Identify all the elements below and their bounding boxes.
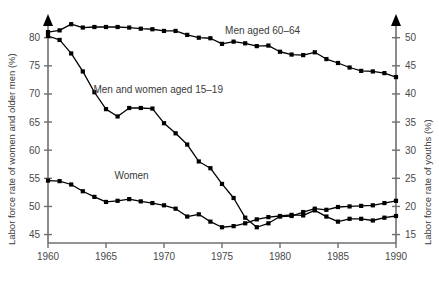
- data-point-marker: [301, 53, 305, 57]
- data-point-marker: [255, 44, 259, 48]
- right-tick-label: 25: [405, 173, 417, 184]
- data-point-marker: [232, 196, 236, 200]
- series-0: [46, 22, 398, 79]
- left-axis-arrow-icon: [43, 14, 53, 26]
- data-point-marker: [69, 182, 73, 186]
- data-point-marker: [208, 36, 212, 40]
- right-axis-arrow-icon: [391, 14, 401, 26]
- data-point-marker: [394, 75, 398, 79]
- data-point-marker: [81, 25, 85, 29]
- data-point-marker: [81, 189, 85, 193]
- data-point-marker: [394, 214, 398, 218]
- right-tick-label: 30: [405, 145, 417, 156]
- data-point-marker: [255, 225, 259, 229]
- data-point-marker: [382, 201, 386, 205]
- x-tick-label: 1990: [385, 251, 408, 262]
- data-point-marker: [127, 106, 131, 110]
- data-point-marker: [371, 69, 375, 73]
- right-axis-title: Labor force rate of youths (%): [422, 119, 433, 245]
- series-line-2: [48, 181, 396, 228]
- data-point-marker: [46, 178, 50, 182]
- data-point-marker: [266, 215, 270, 219]
- series-2: [46, 178, 398, 229]
- data-point-marker: [359, 204, 363, 208]
- left-tick-label: 70: [29, 88, 41, 99]
- data-point-marker: [278, 50, 282, 54]
- data-point-marker: [348, 65, 352, 69]
- series-label-0: Men aged 60–64: [225, 25, 301, 36]
- data-point-marker: [185, 214, 189, 218]
- right-axis: 1520253035404550: [391, 14, 417, 243]
- data-point-marker: [150, 106, 154, 110]
- chart-container: 4550556065707580 1520253035404550 196019…: [0, 0, 439, 285]
- data-series-group: [46, 22, 398, 229]
- x-tick-label: 1960: [37, 251, 60, 262]
- data-point-marker: [150, 27, 154, 31]
- data-point-marker: [197, 159, 201, 163]
- data-point-marker: [127, 197, 131, 201]
- data-point-marker: [185, 142, 189, 146]
- data-point-marker: [58, 28, 62, 32]
- data-point-marker: [104, 25, 108, 29]
- x-tick-label: 1980: [269, 251, 292, 262]
- data-point-marker: [336, 220, 340, 224]
- right-tick-label: 20: [405, 201, 417, 212]
- data-point-marker: [104, 200, 108, 204]
- data-point-marker: [58, 38, 62, 42]
- data-point-marker: [127, 25, 131, 29]
- series-label-2: Women: [114, 170, 148, 181]
- data-point-marker: [92, 195, 96, 199]
- data-point-marker: [266, 43, 270, 47]
- data-point-marker: [116, 199, 120, 203]
- data-point-marker: [232, 40, 236, 44]
- data-point-marker: [116, 25, 120, 29]
- data-point-marker: [394, 199, 398, 203]
- data-point-marker: [324, 214, 328, 218]
- left-tick-label: 75: [29, 60, 41, 71]
- data-point-marker: [197, 36, 201, 40]
- right-tick-label: 40: [405, 88, 417, 99]
- data-point-marker: [243, 221, 247, 225]
- data-point-marker: [336, 61, 340, 65]
- data-point-marker: [220, 42, 224, 46]
- data-point-marker: [162, 29, 166, 33]
- data-point-marker: [162, 203, 166, 207]
- data-point-marker: [174, 207, 178, 211]
- data-point-marker: [359, 69, 363, 73]
- data-point-marker: [348, 204, 352, 208]
- data-point-marker: [208, 166, 212, 170]
- data-point-marker: [359, 217, 363, 221]
- data-point-marker: [174, 29, 178, 33]
- data-point-marker: [382, 71, 386, 75]
- data-point-marker: [104, 107, 108, 111]
- data-point-marker: [266, 221, 270, 225]
- data-point-marker: [290, 213, 294, 217]
- data-point-marker: [290, 52, 294, 56]
- data-point-marker: [220, 182, 224, 186]
- data-point-marker: [116, 114, 120, 118]
- x-tick-label: 1985: [327, 251, 350, 262]
- data-point-marker: [324, 208, 328, 212]
- left-tick-label: 55: [29, 173, 41, 184]
- left-tick-label: 45: [29, 229, 41, 240]
- data-point-marker: [348, 217, 352, 221]
- right-tick-label: 15: [405, 229, 417, 240]
- data-point-marker: [371, 203, 375, 207]
- data-point-marker: [208, 220, 212, 224]
- data-point-marker: [197, 212, 201, 216]
- data-point-marker: [69, 22, 73, 26]
- data-point-marker: [139, 199, 143, 203]
- series-1: [46, 34, 398, 229]
- data-point-marker: [185, 33, 189, 37]
- x-tick-label: 1975: [211, 251, 234, 262]
- right-tick-label: 35: [405, 117, 417, 128]
- data-point-marker: [46, 30, 50, 34]
- data-point-marker: [150, 201, 154, 205]
- data-point-marker: [336, 205, 340, 209]
- chart-svg: 4550556065707580 1520253035404550 196019…: [0, 0, 439, 285]
- data-point-marker: [69, 51, 73, 55]
- left-axis: 4550556065707580: [29, 14, 53, 243]
- data-point-marker: [174, 131, 178, 135]
- data-point-marker: [382, 216, 386, 220]
- left-tick-label: 80: [29, 32, 41, 43]
